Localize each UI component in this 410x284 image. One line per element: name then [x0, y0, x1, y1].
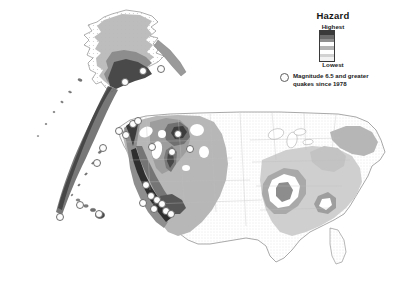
quake-marker	[151, 206, 158, 213]
circle-marker-icon	[280, 73, 289, 82]
quake-marker	[143, 182, 150, 189]
quake-marker	[140, 200, 147, 207]
quake-marker	[158, 66, 165, 73]
quake-marker	[149, 144, 156, 151]
quake-marker	[116, 128, 123, 135]
legend-highest-label: Highest	[298, 23, 368, 30]
legend-lowest-label: Lowest	[298, 61, 368, 68]
legend-title: Hazard	[298, 10, 368, 21]
quake-legend-line1: Magnitude 6.5 and greater	[293, 72, 369, 79]
quake-marker	[100, 145, 107, 152]
quake-marker	[187, 146, 194, 153]
quake-marker	[135, 118, 142, 125]
map-legend: Hazard Highest Lowest Magnitude 6.5 and …	[258, 6, 408, 108]
quake-marker	[94, 160, 101, 167]
quake-marker	[140, 68, 147, 75]
quake-marker	[169, 149, 176, 156]
hazard-map-figure: Hazard Highest Lowest Magnitude 6.5 and …	[0, 0, 410, 284]
quake-marker	[175, 131, 182, 138]
quake-marker	[168, 211, 175, 218]
quake-marker	[77, 202, 84, 209]
quake-marker	[96, 211, 103, 218]
quake-marker	[159, 201, 166, 208]
quake-legend-text: Magnitude 6.5 and greater quakes since 1…	[293, 72, 369, 87]
quake-legend-line2: quakes since 1978	[293, 80, 347, 87]
quake-legend-entry: Magnitude 6.5 and greater quakes since 1…	[280, 72, 408, 87]
quake-marker	[122, 79, 129, 86]
quake-marker	[57, 214, 64, 221]
quake-marker	[123, 132, 130, 139]
hazard-color-bar	[319, 30, 335, 62]
